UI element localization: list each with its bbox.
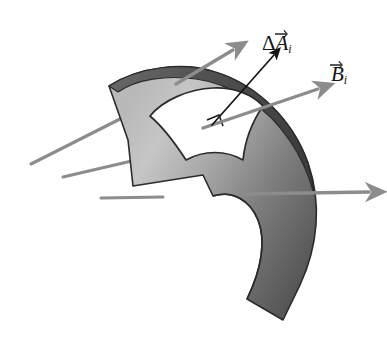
field-line-1 xyxy=(31,118,122,164)
figure-root: ΔAi Bi xyxy=(0,0,387,348)
field-line-lower-arrow xyxy=(243,192,369,194)
field-line-2 xyxy=(63,160,136,177)
field-line-3 xyxy=(101,197,163,198)
flux-diagram xyxy=(0,0,387,348)
